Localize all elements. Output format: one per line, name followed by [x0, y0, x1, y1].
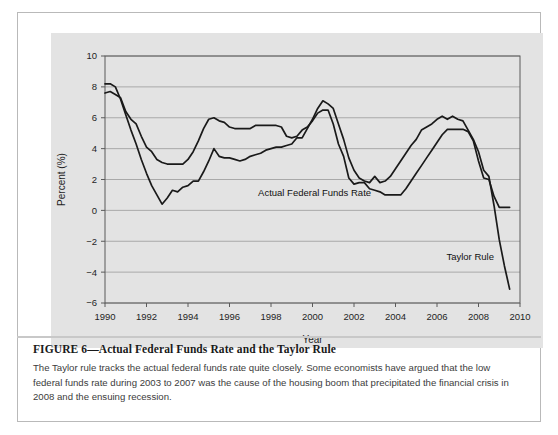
- chart-panel: 1086420−2−4−6 19901992199419961998200020…: [51, 33, 543, 348]
- y-tick-label: −4: [86, 267, 97, 278]
- y-tick-label: −6: [86, 297, 97, 308]
- y-tick-label: 4: [92, 143, 97, 154]
- y-tick-label: 0: [92, 205, 97, 216]
- y-tick-label: −2: [86, 236, 97, 247]
- caption-block: FIGURE 6—Actual Federal Funds Rate and t…: [33, 343, 517, 405]
- caption-divider: [17, 336, 541, 338]
- y-tick-label: 8: [92, 81, 97, 92]
- y-tick-label: 6: [92, 112, 97, 123]
- x-tick-label: 2008: [468, 311, 489, 322]
- x-tick-label: 1994: [177, 311, 198, 322]
- y-tick-label: 10: [86, 50, 97, 61]
- x-tick-label: 2010: [509, 311, 530, 322]
- x-tick-label: 2000: [302, 311, 323, 322]
- actual-federal-funds-rate-label: Actual Federal Funds Rate: [258, 187, 371, 198]
- taylor-rule-label: Taylor Rule: [446, 251, 494, 262]
- x-tick-label: 2004: [385, 311, 406, 322]
- x-tick-label: 2002: [343, 311, 364, 322]
- series-annotations: Actual Federal Funds RateTaylor Rule: [258, 187, 494, 261]
- x-axis-tick-labels: 1990199219941996199820002002200420062008…: [94, 311, 530, 322]
- x-tick-label: 1998: [260, 311, 281, 322]
- figure-container: 1086420−2−4−6 19901992199419961998200020…: [0, 0, 558, 435]
- x-tick-label: 1996: [219, 311, 240, 322]
- line-chart: 1086420−2−4−6 19901992199419961998200020…: [51, 33, 543, 348]
- x-tick-label: 2006: [426, 311, 447, 322]
- x-tick-label: 1990: [94, 311, 115, 322]
- y-axis-title: Percent (%): [56, 153, 67, 206]
- figure-caption: The Taylor rule tracks the actual federa…: [33, 361, 517, 405]
- x-tick-label: 1992: [136, 311, 157, 322]
- y-tick-label: 2: [92, 174, 97, 185]
- x-axis-ticks: [105, 303, 520, 307]
- figure-title: FIGURE 6—Actual Federal Funds Rate and t…: [33, 343, 517, 355]
- y-axis-tick-labels: 1086420−2−4−6: [86, 50, 105, 308]
- gridlines: [105, 56, 520, 303]
